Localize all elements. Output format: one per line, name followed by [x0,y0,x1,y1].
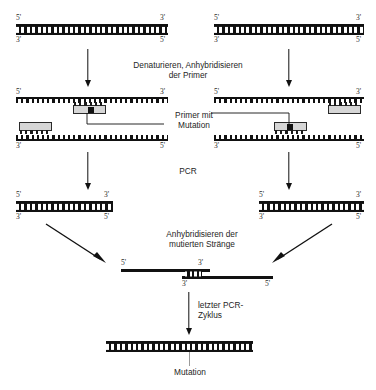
end-label-5prime: 5' [160,36,165,44]
figure-canvas: 5' 3' 3' 5' 5' 3' 3' 5' Denaturieren, An… [0,0,376,390]
duplex-dna-top-left [16,24,168,35]
end-label-3prime: 3' [214,142,219,150]
arrow-head [286,80,292,87]
strand-teeth [16,135,168,139]
heteroduplex-overlap-region [185,269,202,278]
end-label-5prime: 5' [259,191,264,199]
step-label-pcr: PCR [148,166,228,177]
arrow-down-icon [283,152,295,190]
end-label-3prime: 3' [16,142,21,150]
arrow-shaft [87,152,88,184]
end-label-3prime: 3' [259,213,264,221]
end-label-5prime: 5' [16,191,21,199]
end-label-3prime: 3' [160,88,165,96]
step-label-anneal-line2: mutierten Stränge [136,239,268,250]
mutation-pointer-line [189,352,190,366]
primer-teeth [275,130,306,134]
end-label-5prime: 5' [104,213,109,221]
callout-primer-mutation-line1: Primer mit [152,110,236,121]
arrow-down-icon [82,49,94,87]
end-label-5prime: 5' [160,142,165,150]
end-label-5prime: 5' [214,14,219,22]
strand-teeth [214,135,364,139]
primer-plain-right [328,105,361,114]
step-label-denature-line1: Denaturieren, Anhybridisieren [110,60,266,71]
step-label-denature-line2: der Primer [110,70,266,81]
arrow-head [85,80,91,87]
base-pair-rungs [16,203,113,209]
base-pair-rungs [106,343,253,349]
step-label-last-cycle-line2: Zyklus [198,310,288,321]
single-strand-bottom-right [214,134,364,141]
arrow-head [286,183,292,190]
base-pair-rungs [16,26,168,32]
end-label-5prime: 5' [356,213,361,221]
step-label-last-cycle-line1: letzter PCR- [198,300,288,311]
base-pair-rungs [259,203,364,209]
end-label-3prime: 3' [182,280,187,288]
end-label-3prime: 3' [198,259,203,267]
duplex-dna-final-product [106,341,253,352]
end-label-5prime: 5' [16,88,21,96]
label-mutation-bottom: Mutation [150,367,230,378]
arrow-shaft [288,49,289,81]
base-pair-rungs [185,271,202,276]
end-label-3prime: 3' [356,14,361,22]
callout-primer-mutation-line2: Mutation [152,120,236,131]
end-label-3prime: 3' [214,36,219,44]
step-label-anneal-line1: Anhybridisieren der [136,229,268,240]
end-label-3prime: 3' [160,14,165,22]
arrow-shaft [188,292,189,329]
single-strand-bottom-left [16,134,168,141]
end-label-3prime: 3' [16,213,21,221]
end-label-5prime: 5' [356,142,361,150]
end-label-5prime: 5' [16,14,21,22]
end-label-5prime: 5' [265,280,270,288]
end-label-5prime: 5' [214,88,219,96]
strand-backbone [16,139,168,141]
arrow-shaft [288,152,289,184]
end-label-5prime: 5' [121,259,126,267]
end-label-3prime: 3' [356,191,361,199]
arrow-down-icon [82,152,94,190]
duplex-dna-pcr-product-right [259,201,364,212]
end-label-3prime: 3' [104,191,109,199]
primer-teeth [329,102,360,106]
arrow-shaft [87,49,88,81]
primer-body [328,105,361,114]
arrow-diagonal-down-right-icon [44,222,110,266]
end-label-3prime: 3' [16,36,21,44]
arrow-down-icon [283,49,295,87]
primer-plain-left [19,122,52,131]
arrow-head [186,328,192,335]
base-pair-rungs [214,26,364,32]
arrow-diagonal-down-left-icon [268,222,334,266]
duplex-dna-pcr-product-left [16,201,113,212]
duplex-dna-top-right [214,24,364,35]
strand-backbone [214,139,364,141]
arrow-down-icon [183,292,195,335]
arrow-head [85,183,91,190]
end-label-5prime: 5' [356,36,361,44]
primer-teeth [20,130,51,134]
end-label-3prime: 3' [356,88,361,96]
